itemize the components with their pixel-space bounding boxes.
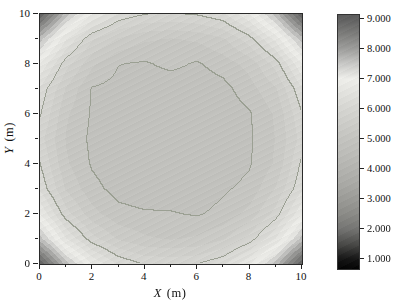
y-axis-variable: Y (2, 147, 16, 154)
y-tick-label: 8 (8, 58, 30, 69)
y-axis-label: Y(m) (2, 122, 17, 154)
x-axis-label: X(m) (154, 286, 187, 301)
colorbar-gradient-canvas (338, 15, 359, 269)
y-major-tick (33, 113, 38, 114)
x-minor-tick (118, 264, 119, 267)
y-tick-label: 6 (8, 108, 30, 119)
x-minor-tick (170, 264, 171, 267)
y-major-tick (33, 213, 38, 214)
x-tick-label: 8 (246, 271, 252, 282)
y-major-tick (33, 163, 38, 164)
y-minor-tick (35, 38, 38, 39)
contour-heatmap-canvas (40, 14, 302, 264)
x-major-tick (39, 264, 40, 269)
y-axis-unit: (m) (2, 122, 16, 142)
y-minor-tick (35, 138, 38, 139)
colorbar-tick-label: 9.000 (367, 12, 391, 23)
x-axis-unit: (m) (167, 286, 187, 300)
colorbar-tick-label: 6.000 (367, 102, 391, 113)
y-major-tick (33, 63, 38, 64)
colorbar-tick (360, 108, 364, 109)
x-minor-tick (275, 264, 276, 267)
x-tick-label: 6 (193, 271, 199, 282)
colorbar-tick (360, 168, 364, 169)
colorbar-tick-label: 8.000 (367, 42, 391, 53)
y-minor-tick (35, 188, 38, 189)
colorbar-tick-label: 2.000 (367, 223, 391, 234)
plot-area (39, 13, 303, 265)
y-major-tick (33, 263, 38, 264)
colorbar-tick (360, 138, 364, 139)
y-minor-tick (35, 88, 38, 89)
colorbar-tick (360, 78, 364, 79)
x-axis-variable: X (154, 286, 162, 300)
y-major-tick (33, 13, 38, 14)
x-minor-tick (222, 264, 223, 267)
x-tick-label: 10 (296, 271, 307, 282)
x-major-tick (196, 264, 197, 269)
colorbar-tick (360, 228, 364, 229)
colorbar-tick-label: 4.000 (367, 163, 391, 174)
colorbar-tick-label: 3.000 (367, 193, 391, 204)
contour-figure: 0246810 0246810 X(m) Y(m) 9.0008.0007.00… (0, 0, 394, 307)
x-tick-label: 2 (89, 271, 95, 282)
y-tick-label: 10 (8, 8, 30, 19)
colorbar-tick-label: 7.000 (367, 72, 391, 83)
x-tick-label: 0 (36, 271, 42, 282)
colorbar-tick (360, 18, 364, 19)
colorbar (337, 14, 360, 270)
colorbar-tick-label: 5.000 (367, 132, 391, 143)
colorbar-tick-label: 1.000 (367, 253, 391, 264)
colorbar-tick (360, 198, 364, 199)
x-major-tick (91, 264, 92, 269)
x-major-tick (144, 264, 145, 269)
y-tick-label: 4 (8, 158, 30, 169)
y-tick-label: 2 (8, 208, 30, 219)
colorbar-tick (360, 258, 364, 259)
x-minor-tick (65, 264, 66, 267)
colorbar-tick (360, 48, 364, 49)
y-tick-label: 0 (8, 258, 30, 269)
x-tick-label: 4 (141, 271, 147, 282)
y-minor-tick (35, 238, 38, 239)
x-major-tick (249, 264, 250, 269)
x-major-tick (301, 264, 302, 269)
